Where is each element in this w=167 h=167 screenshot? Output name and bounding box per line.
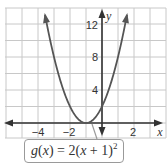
callout-g: g bbox=[31, 143, 38, 158]
x-tick-label: 2 bbox=[130, 126, 136, 138]
function-label-callout: g(x) = 2(x + 1)2 bbox=[24, 139, 124, 163]
curve-right-arrow-icon bbox=[122, 13, 129, 23]
y-tick-label: 4 bbox=[92, 84, 98, 96]
callout-pointer bbox=[92, 124, 97, 139]
y-axis-label: y bbox=[105, 9, 112, 23]
curve-left-arrow-icon bbox=[43, 13, 50, 23]
callout-rest: + 1) bbox=[86, 143, 113, 158]
x-tick-label: −2 bbox=[63, 126, 76, 138]
y-axis-down-arrow-icon bbox=[99, 127, 106, 136]
callout-x: x bbox=[43, 143, 49, 158]
y-axis-up-arrow-icon bbox=[99, 9, 106, 18]
x-axis-label: x bbox=[156, 125, 163, 139]
callout-exponent: 2 bbox=[113, 141, 118, 151]
x-tick-label: −4 bbox=[32, 126, 45, 138]
callout-eq: = 2( bbox=[54, 143, 81, 158]
y-tick-label: 8 bbox=[92, 51, 98, 63]
x-axis-left-arrow-icon bbox=[4, 120, 13, 127]
y-tick-label: 12 bbox=[86, 19, 98, 31]
